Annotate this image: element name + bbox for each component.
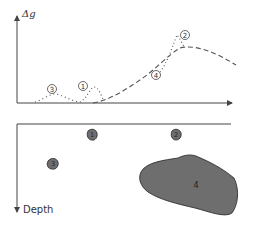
body-4 [140, 155, 238, 215]
label-3-text: 3 [50, 86, 54, 94]
gravity-anomaly-diagram: 3 1 2 4 1 2 3 4 Δg Depth [0, 0, 255, 227]
buried-bodies [47, 129, 237, 215]
body-3-label: 3 [51, 160, 55, 168]
anomaly-curves [35, 35, 236, 103]
curve-4 [93, 47, 236, 103]
body-4-label: 4 [193, 181, 198, 190]
delta-g-label: Δg [22, 9, 36, 19]
curve-3 [35, 94, 80, 102]
body-2-label: 2 [174, 131, 178, 139]
diagram-canvas: 3 1 2 4 1 2 3 4 [0, 0, 255, 227]
depth-label: Depth [23, 205, 53, 215]
body-1-label: 1 [90, 131, 94, 139]
curve-2 [160, 35, 185, 72]
label-4-text: 4 [154, 72, 159, 80]
label-2-text: 2 [183, 32, 187, 40]
label-1-text: 1 [81, 83, 85, 91]
curve-labels [48, 31, 190, 94]
